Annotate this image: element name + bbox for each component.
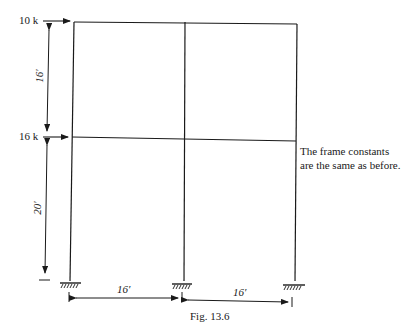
dim-lower-story bbox=[45, 145, 47, 273]
dim-label-right-bay: 16′ bbox=[233, 286, 246, 299]
load-label-roof: 10 k bbox=[19, 14, 38, 27]
note-line-1: The frame constants bbox=[300, 144, 400, 158]
dim-right-bay bbox=[188, 300, 288, 302]
note-line-2: are the same as before. bbox=[300, 158, 400, 172]
left-column bbox=[70, 22, 74, 281]
dim-label-left-bay: 16′ bbox=[117, 283, 130, 296]
dim-label-lower-story: 20′ bbox=[31, 201, 43, 214]
frame-note: The frame constants are the same as befo… bbox=[300, 144, 400, 172]
dim-upper-story bbox=[47, 30, 49, 131]
dim-label-upper-story: 16′ bbox=[33, 69, 45, 82]
middle-column bbox=[184, 22, 185, 281]
right-column bbox=[295, 24, 297, 281]
figure-caption: Fig. 13.6 bbox=[190, 310, 229, 323]
load-label-floor: 16 k bbox=[19, 130, 38, 143]
